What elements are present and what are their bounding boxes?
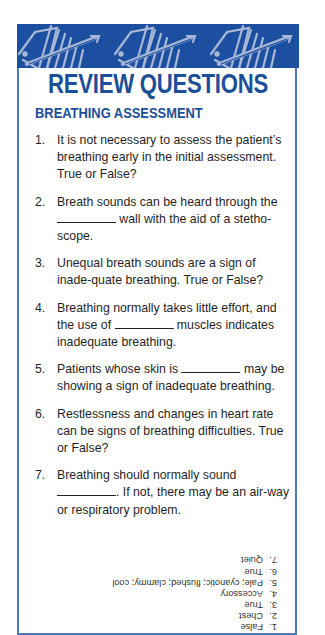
question-number: 4. bbox=[35, 299, 45, 316]
section-title: BREATHING ASSESSMENT bbox=[35, 104, 203, 122]
question-text: Patients whose skin is bbox=[57, 361, 182, 376]
answer-item: 2.Chest bbox=[112, 610, 277, 621]
answer-list: 1.False 2.Chest 3.True 4.Accessory 5.Pal… bbox=[112, 554, 277, 632]
question-item: 3. Unequal breath sounds are a sign of i… bbox=[19, 254, 297, 288]
answer-item: 5.Pale; cyanotic; flushed; clammy; cool bbox=[112, 577, 277, 588]
question-number: 5. bbox=[35, 360, 45, 377]
pencil-paper-pattern-icon bbox=[17, 24, 299, 68]
answer-blank bbox=[57, 485, 116, 496]
answer-blank bbox=[57, 212, 116, 223]
answer-item: 7.Quiet bbox=[112, 554, 277, 565]
answer-item: 4.Accessory bbox=[112, 588, 277, 599]
answer-item: 1.False bbox=[112, 621, 277, 632]
question-item: 6. Restlessness and changes in heart rat… bbox=[19, 405, 297, 457]
question-item: 2. Breath sounds can be heard through th… bbox=[19, 193, 297, 245]
answer-blank bbox=[182, 362, 241, 373]
question-item: 7. Breathing should normally sound . If … bbox=[19, 466, 297, 518]
question-item: 1. It is not necessary to assess the pat… bbox=[19, 131, 297, 183]
pencil-banner bbox=[17, 24, 299, 68]
answer-item: 6.True bbox=[112, 565, 277, 576]
question-number: 6. bbox=[35, 405, 45, 422]
page-title: REVIEW QUESTIONS bbox=[44, 68, 272, 100]
question-number: 2. bbox=[35, 193, 45, 210]
question-number: 1. bbox=[35, 131, 45, 148]
answer-blank bbox=[115, 318, 174, 329]
answer-item: 3.True bbox=[112, 599, 277, 610]
question-text: It is not necessary to assess the patien… bbox=[57, 131, 292, 183]
question-number: 3. bbox=[35, 254, 45, 271]
question-text: Restlessness and changes in heart rate c… bbox=[57, 405, 292, 457]
answer-key-upside-down: 1.False 2.Chest 3.True 4.Accessory 5.Pal… bbox=[19, 552, 297, 632]
question-text: Unequal breath sounds are a sign of inad… bbox=[57, 254, 292, 288]
question-number: 7. bbox=[35, 466, 45, 483]
question-text: Breath sounds can be heard through the bbox=[57, 194, 278, 209]
question-item: 4. Breathing normally takes little effor… bbox=[19, 299, 297, 351]
question-text: Breathing should normally sound bbox=[57, 467, 236, 482]
review-questions-card: REVIEW QUESTIONS BREATHING ASSESSMENT 1.… bbox=[17, 24, 297, 635]
question-item: 5. Patients whose skin is may be showing… bbox=[19, 360, 297, 394]
question-list: 1. It is not necessary to assess the pat… bbox=[19, 131, 297, 528]
